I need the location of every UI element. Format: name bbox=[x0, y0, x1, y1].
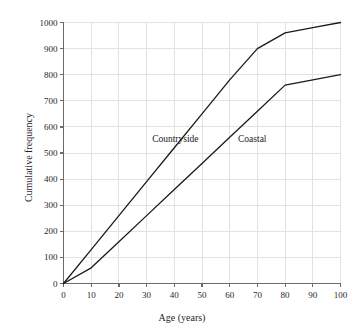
y-tick-label: 400 bbox=[44, 175, 58, 184]
series-label-coastal: Coastal bbox=[238, 134, 267, 144]
tick-marks bbox=[60, 23, 341, 288]
x-tick-label: 10 bbox=[87, 291, 96, 300]
y-tick-label: 0 bbox=[53, 279, 58, 288]
y-axis-title: Cumulative frequency bbox=[23, 68, 34, 248]
cumulative-frequency-chart: 01002003004005006007008009001000 0102030… bbox=[0, 0, 364, 333]
x-axis-title: Age (years) bbox=[0, 312, 364, 323]
x-tick-label: 50 bbox=[198, 291, 207, 300]
y-tick-label: 600 bbox=[44, 122, 58, 131]
grid-lines bbox=[64, 23, 341, 284]
y-tick-label: 900 bbox=[44, 44, 58, 53]
x-tick-label: 70 bbox=[253, 291, 262, 300]
y-tick-label: 300 bbox=[44, 201, 58, 210]
x-tick-label: 100 bbox=[334, 291, 348, 300]
x-tick-label: 80 bbox=[281, 291, 290, 300]
x-tick-label: 30 bbox=[142, 291, 151, 300]
y-tick-label: 200 bbox=[44, 227, 58, 236]
x-tick-label: 60 bbox=[225, 291, 234, 300]
y-tick-label: 1000 bbox=[40, 18, 58, 27]
y-tick-label: 800 bbox=[44, 70, 58, 79]
series-label-countryside: Countryside bbox=[152, 134, 198, 144]
x-tick-label: 20 bbox=[114, 291, 123, 300]
y-tick-label: 100 bbox=[44, 253, 58, 262]
y-tick-label: 500 bbox=[44, 149, 58, 158]
x-tick-label: 40 bbox=[170, 291, 179, 300]
x-tick-label: 0 bbox=[61, 291, 66, 300]
y-tick-label: 700 bbox=[44, 96, 58, 105]
x-tick-label: 90 bbox=[308, 291, 317, 300]
